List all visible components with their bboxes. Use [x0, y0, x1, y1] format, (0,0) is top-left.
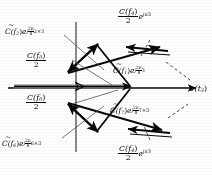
label-c4-upper: C(f4) 2 ejπ3 — [118, 8, 151, 25]
leader-c0-upper — [72, 60, 112, 85]
label-c7: C(f7)ej2π87×3 — [110, 106, 149, 116]
label-c0-lower: C(f0) 2 — [26, 94, 46, 111]
label-c4-lower: C(f4) 2 ejπ3 — [118, 145, 151, 162]
leader-c2 — [64, 35, 104, 70]
label-c1: C(f1)ej2π83 — [113, 66, 145, 76]
leader-c6 — [62, 106, 104, 138]
leader-c1-dashed — [166, 62, 190, 80]
leader-c0-lower — [72, 90, 118, 104]
label-c2: C(f2)ej2π82×3 — [5, 27, 44, 37]
figure-canvas: C(f2)ej2π82×3 C(f0) 2 C(f0) 2 C(f6)ej2π8… — [0, 0, 212, 175]
axis-label-v-t3: v(t3) — [190, 85, 207, 93]
leader-c7-dashed — [168, 104, 188, 118]
label-c6: C(f6)ej2π86×3 — [2, 139, 41, 149]
label-c2-symbol: C(f — [5, 27, 16, 36]
vector-c4-lower — [128, 129, 170, 133]
label-c0-upper: C(f0) 2 — [26, 52, 46, 69]
vector-c4-lower-baseline — [130, 134, 172, 137]
